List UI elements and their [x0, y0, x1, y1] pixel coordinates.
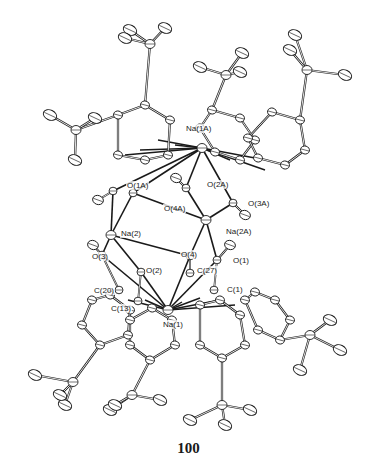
atom-label-o2: O(2) — [145, 266, 163, 275]
atom-label-na1: Na(1) — [162, 320, 184, 329]
atom-label-o1a: O(1A) — [126, 181, 149, 190]
atom-label-o2a: O(2A) — [206, 180, 229, 189]
atom-label-o3: O(3) — [91, 252, 109, 261]
atom-label-o1: O(1) — [232, 256, 250, 265]
atom-label-o4a: O(4A) — [163, 204, 186, 213]
atom-label-na2a: Na(2A) — [225, 227, 252, 236]
atom-label-o3a: O(3A) — [247, 199, 270, 208]
atom-label-na2: Na(2) — [120, 229, 142, 238]
atom-label-c20: C(20) — [93, 286, 115, 295]
atom-label-c1: C(1) — [226, 285, 244, 294]
molecular-structure-diagram — [0, 0, 377, 461]
atom-label-c13: C(13) — [110, 304, 132, 313]
atom-label-o4: O(4) — [180, 250, 198, 259]
atom-label-c27: C(27) — [196, 266, 218, 275]
compound-number-caption: 100 — [0, 440, 377, 457]
atom-label-na1a: Na(1A) — [185, 124, 212, 133]
